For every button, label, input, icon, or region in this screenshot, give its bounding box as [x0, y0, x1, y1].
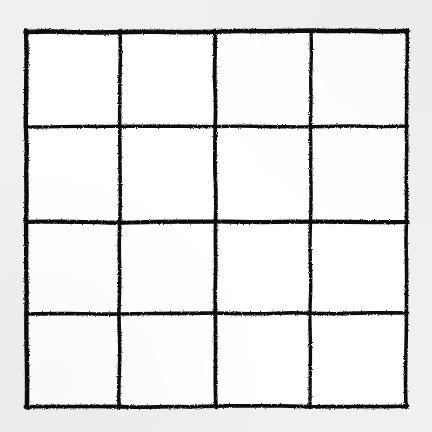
- v-line-1: [119, 31, 121, 408]
- drawing-canvas: [0, 0, 432, 432]
- v-line-4: [406, 31, 408, 408]
- h-line-2-overlay: [26, 222, 407, 223]
- hand-drawn-grid: [0, 0, 432, 432]
- v-line-3: [310, 31, 312, 408]
- h-line-0-overlay: [26, 31, 407, 32]
